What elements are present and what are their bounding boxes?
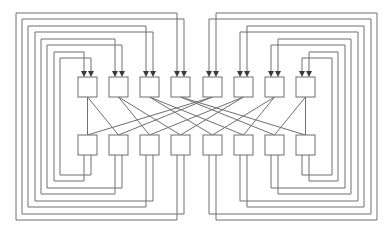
bottom-node-1 xyxy=(109,135,128,155)
top-node-0 xyxy=(78,77,97,97)
top-node-6 xyxy=(265,77,284,97)
top-stage-nodes xyxy=(78,77,315,97)
top-node-3 xyxy=(171,77,190,97)
input-arrows xyxy=(81,71,312,77)
bottom-node-4 xyxy=(203,135,222,155)
top-node-4 xyxy=(203,77,222,97)
shuffle-network-diagram xyxy=(0,0,389,233)
arrowhead-icon xyxy=(112,71,118,77)
bottom-stage-nodes xyxy=(78,135,315,155)
arrowhead-icon xyxy=(237,71,243,77)
arrowhead-icon xyxy=(213,71,219,77)
bottom-node-7 xyxy=(296,135,315,155)
shuffle-edges xyxy=(88,97,306,135)
arrowhead-icon xyxy=(143,71,149,77)
arrowhead-icon xyxy=(81,71,87,77)
arrowhead-icon xyxy=(244,71,250,77)
bottom-node-6 xyxy=(265,135,284,155)
bottom-node-3 xyxy=(171,135,190,155)
bottom-node-5 xyxy=(234,135,253,155)
top-node-1 xyxy=(109,77,128,97)
arrowhead-icon xyxy=(174,71,180,77)
top-node-5 xyxy=(234,77,253,97)
arrowhead-icon xyxy=(206,71,212,77)
arrowhead-icon xyxy=(119,71,125,77)
arrowhead-icon xyxy=(275,71,281,77)
arrowhead-icon xyxy=(268,71,274,77)
bottom-node-2 xyxy=(140,135,159,155)
top-node-7 xyxy=(296,77,315,97)
bottom-node-0 xyxy=(78,135,97,155)
arrowhead-icon xyxy=(150,71,156,77)
arrowhead-icon xyxy=(88,71,94,77)
arrowhead-icon xyxy=(306,71,312,77)
arrowhead-icon xyxy=(299,71,305,77)
top-node-2 xyxy=(140,77,159,97)
arrowhead-icon xyxy=(181,71,187,77)
